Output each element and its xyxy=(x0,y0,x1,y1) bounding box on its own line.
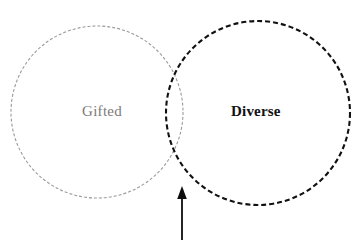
set-label-diverse: Diverse xyxy=(231,104,281,119)
venn-diagram-canvas xyxy=(0,0,361,245)
venn-diagram: Gifted Diverse xyxy=(0,0,361,245)
intersection-arrow-icon xyxy=(177,186,187,240)
set-label-gifted: Gifted xyxy=(82,104,122,119)
arrow-head xyxy=(177,186,187,199)
